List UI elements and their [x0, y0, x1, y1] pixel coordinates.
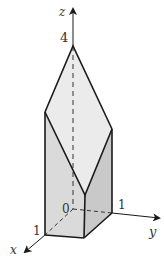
front-vertical-edge	[84, 195, 85, 238]
solid-diagram: z 4 0 1 y 1 x	[0, 0, 164, 256]
y-axis-label: y	[148, 224, 157, 239]
origin-label: 0	[62, 202, 70, 216]
diagram-canvas: z 4 0 1 y 1 x	[0, 0, 164, 256]
z-tick-label: 4	[60, 30, 68, 45]
x-tick-label: 1	[33, 224, 41, 238]
x-axis-label: x	[10, 243, 17, 256]
y-axis	[112, 213, 159, 218]
y-tick-label: 1	[118, 198, 126, 212]
z-axis-label: z	[58, 5, 66, 19]
